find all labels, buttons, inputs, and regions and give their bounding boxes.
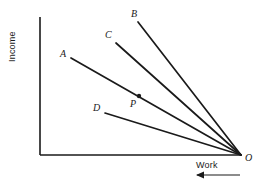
ray-a-label: A — [60, 49, 66, 59]
ray-d-line — [105, 113, 241, 155]
labor-supply-budget-constraint-figure: Income Work A B C D O P — [0, 0, 266, 183]
ray-b-label: B — [131, 9, 137, 19]
ray-d-label: D — [93, 103, 100, 113]
point-p-label: P — [130, 99, 136, 109]
ray-b-line — [138, 22, 241, 155]
ray-c-label: C — [105, 30, 112, 40]
work-direction-arrow-icon — [196, 172, 240, 179]
x-axis-label: Work — [196, 161, 218, 170]
y-axis-label: Income — [8, 31, 17, 62]
origin-label: O — [245, 153, 252, 163]
point-p-marker — [137, 94, 141, 98]
figure-canvas — [0, 0, 266, 183]
